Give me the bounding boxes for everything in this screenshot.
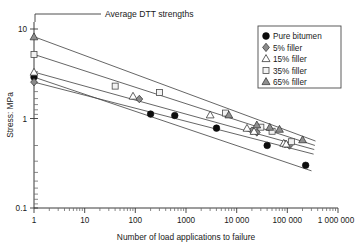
legend-label-3: 35% filler bbox=[273, 67, 307, 76]
data-point-filled-circle bbox=[147, 111, 154, 118]
data-point-open-square bbox=[157, 90, 163, 96]
legend-label-0: Pure bitumen bbox=[273, 32, 322, 41]
y-tick-label-10: 10 bbox=[18, 25, 28, 34]
data-point-filled-circle bbox=[302, 162, 309, 169]
data-point-filled-circle bbox=[264, 142, 271, 149]
y-tick-label-1: 1 bbox=[22, 115, 27, 124]
x-tick-label-10: 10 bbox=[80, 216, 90, 225]
legend: Pure bitumen 5% filler 15% filler 35% fi… bbox=[258, 26, 341, 88]
annotation-leader-line bbox=[35, 14, 101, 22]
data-point-filled-circle bbox=[213, 125, 220, 132]
fatigue-chart-figure: Average DTT strengths bbox=[0, 0, 360, 251]
y-tick-label-0-1: 0.1 bbox=[16, 204, 28, 213]
data-point-open-square bbox=[288, 139, 294, 145]
annotation-average-dtt-strengths: Average DTT strengths bbox=[105, 9, 194, 19]
chart-svg: Average DTT strengths bbox=[0, 0, 360, 251]
data-point-open-triangle bbox=[243, 124, 251, 131]
legend-label-1: 5% filler bbox=[273, 44, 302, 53]
x-tick-label-100: 100 bbox=[128, 216, 142, 225]
x-tick-label-1000: 1000 bbox=[177, 216, 196, 225]
data-point-open-square bbox=[31, 51, 37, 57]
y-axis-title: Stress: MPa bbox=[5, 92, 15, 138]
data-point-filled-triangle bbox=[30, 33, 38, 40]
x-tick-label-10000: 10 000 bbox=[224, 216, 249, 225]
x-tick-label-1000000: 1 000 000 bbox=[318, 216, 355, 225]
data-point-filled-circle bbox=[171, 112, 178, 119]
x-axis-title: Number of load applications to failure bbox=[117, 232, 256, 242]
legend-label-4: 65% filler bbox=[273, 78, 307, 87]
open-square-icon bbox=[263, 68, 269, 74]
filled-circle-icon bbox=[263, 33, 270, 40]
legend-label-2: 15% filler bbox=[273, 55, 307, 64]
data-point-open-triangle bbox=[129, 92, 137, 99]
x-tick-label-1: 1 bbox=[32, 216, 37, 225]
x-tick-label-100000: 100 000 bbox=[272, 216, 302, 225]
data-point-open-square bbox=[112, 83, 118, 89]
data-point-filled-triangle bbox=[266, 123, 274, 130]
